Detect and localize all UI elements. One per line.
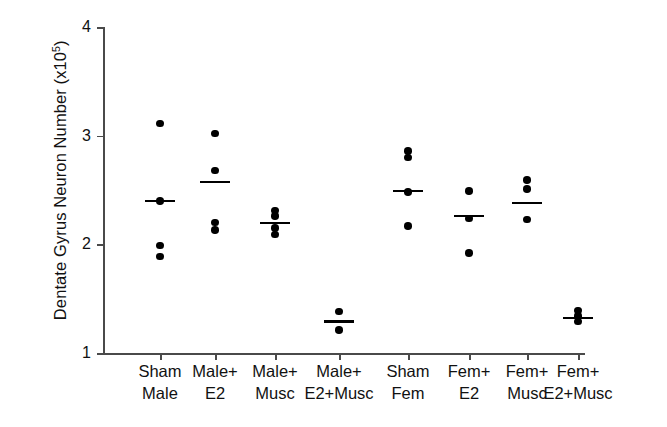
x-tick-0 — [160, 353, 162, 360]
x-tick-4 — [408, 353, 410, 360]
mean-line — [454, 215, 484, 217]
x-tick-2 — [275, 353, 277, 360]
mean-line — [324, 320, 354, 322]
mean-line — [393, 190, 423, 192]
y-tick-3: 3 — [97, 136, 103, 138]
figure-scatter-dentate-gyrus: Dentate Gyrus Neuron Number (x105) 1234 … — [0, 0, 667, 427]
y-tick-1: 1 — [97, 353, 103, 355]
data-point — [465, 187, 473, 195]
y-tick-label-4: 4 — [69, 17, 91, 37]
y-axis-label-tail: ) — [51, 40, 69, 46]
x-tick-6 — [527, 353, 529, 360]
data-point — [156, 120, 164, 128]
x-tick-3 — [339, 353, 341, 360]
data-point — [211, 226, 219, 234]
mean-line — [145, 200, 175, 202]
data-point — [271, 231, 279, 239]
data-point — [404, 154, 412, 162]
x-axis-group-label: Fem+ E2+Musc — [513, 360, 643, 404]
data-point — [523, 185, 531, 193]
mean-line — [512, 202, 542, 204]
y-axis-label-exponent: 5 — [50, 46, 62, 52]
y-axis-label: Dentate Gyrus Neuron Number (x105) — [50, 15, 71, 345]
y-tick-label-3: 3 — [69, 126, 91, 146]
data-point — [156, 242, 164, 250]
y-tick-4: 4 — [97, 27, 103, 29]
plot-area: 1234 — [103, 27, 585, 353]
data-point — [211, 219, 219, 227]
data-point — [523, 176, 531, 184]
y-tick-2: 2 — [97, 244, 103, 246]
x-tick-1 — [215, 353, 217, 360]
x-axis-line — [103, 353, 585, 355]
data-point — [335, 326, 343, 334]
data-point — [211, 130, 219, 138]
y-axis-label-main: Dentate Gyrus Neuron Number (x10 — [51, 52, 69, 320]
mean-line — [200, 181, 230, 183]
x-tick-7 — [578, 353, 580, 360]
data-point — [404, 222, 412, 230]
data-point — [465, 249, 473, 257]
mean-line — [260, 222, 290, 224]
x-tick-5 — [469, 353, 471, 360]
y-tick-label-1: 1 — [69, 343, 91, 363]
data-point — [523, 216, 531, 224]
data-point — [335, 308, 343, 316]
y-tick-label-2: 2 — [69, 234, 91, 254]
mean-line — [563, 317, 593, 319]
data-point — [156, 253, 164, 261]
y-axis-line — [103, 27, 105, 353]
data-point — [211, 167, 219, 175]
data-point — [271, 212, 279, 220]
